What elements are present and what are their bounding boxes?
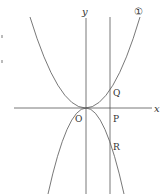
curve-1-label: ① xyxy=(134,6,143,17)
origin-label: O xyxy=(75,114,82,124)
edge-mark xyxy=(1,60,3,63)
graph-figure: y x O ① Q P R xyxy=(0,0,162,194)
edge-mark xyxy=(1,35,3,38)
x-axis-label: x xyxy=(154,103,160,114)
point-r-label: R xyxy=(113,142,120,152)
y-axis-label: y xyxy=(81,6,88,17)
point-q-label: Q xyxy=(113,88,120,98)
curve-1-parabola xyxy=(30,17,140,108)
point-p-label: P xyxy=(113,114,119,124)
